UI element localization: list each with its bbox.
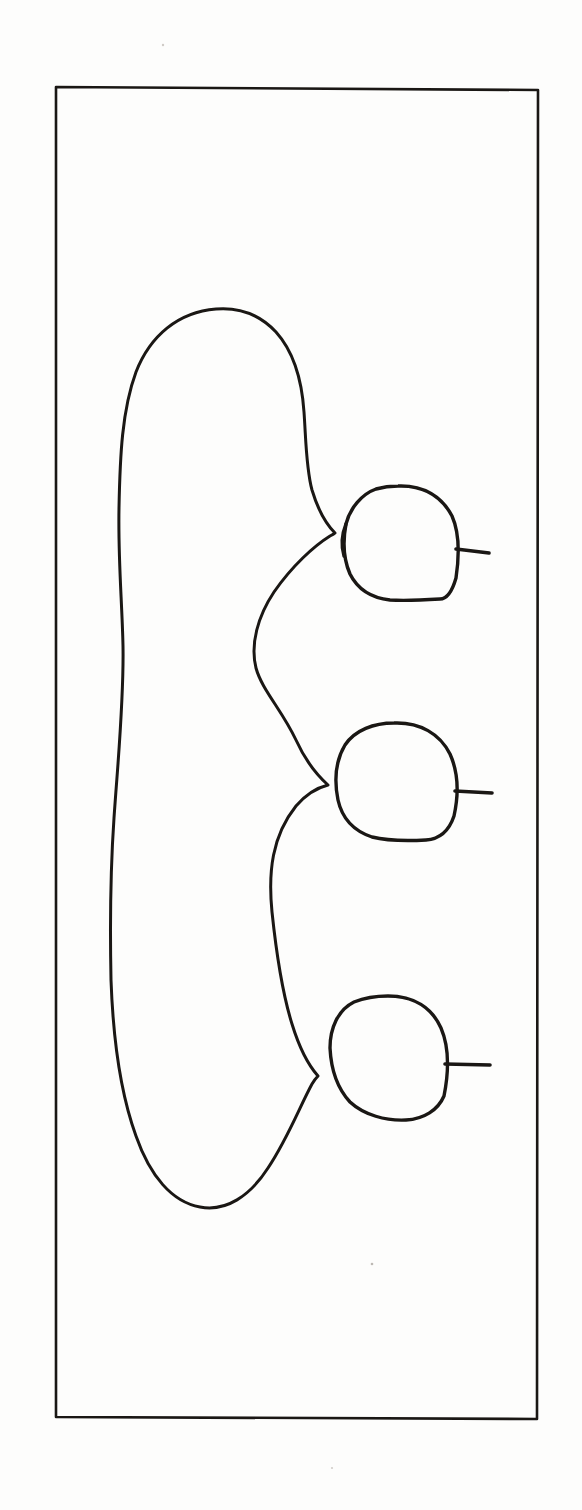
line-drawing-svg — [0, 0, 582, 1510]
speck-low — [331, 1467, 333, 1469]
circle-2-tail — [455, 791, 492, 793]
speck-top — [162, 44, 164, 46]
figure-canvas — [0, 0, 582, 1510]
speck-mid — [371, 1263, 374, 1266]
figure-background — [0, 0, 582, 1510]
circle-3-tail — [445, 1064, 490, 1065]
